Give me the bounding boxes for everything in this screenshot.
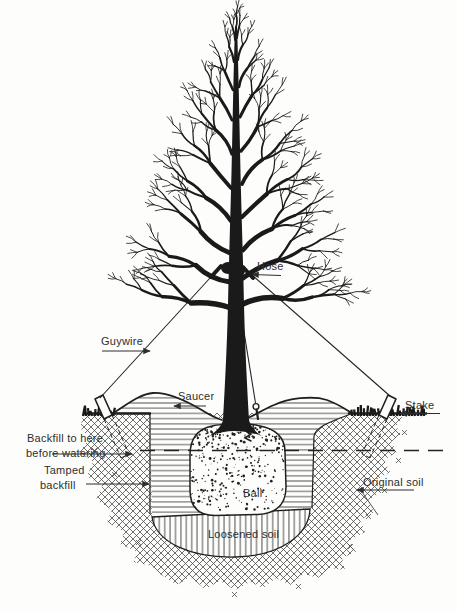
stipple-dot [264, 471, 265, 472]
stipple-dot [207, 429, 208, 430]
stipple-dot [202, 447, 203, 448]
stipple-dot [214, 480, 216, 482]
stipple-dot [253, 508, 255, 510]
stipple-dot [276, 447, 279, 450]
stipple-dot [258, 460, 260, 462]
stipple-dot [229, 472, 231, 474]
stipple-dot [202, 492, 203, 493]
stipple-dot [272, 490, 273, 491]
stipple-dot [225, 493, 227, 495]
stipple-dot [193, 481, 195, 483]
label-loosened-soil: Loosened soil [208, 528, 279, 540]
stipple-dot [220, 495, 222, 497]
stipple-dot [209, 496, 210, 497]
stipple-dot [282, 458, 284, 460]
stipple-dot [220, 488, 222, 490]
stipple-dot [237, 447, 239, 449]
stipple-dot [219, 434, 221, 436]
stipple-dot [254, 427, 256, 429]
stipple-dot [220, 440, 221, 441]
stipple-dot [241, 502, 242, 503]
stipple-dot [207, 436, 209, 438]
stipple-dot [219, 484, 221, 486]
stipple-dot [251, 456, 253, 458]
stipple-dot [205, 437, 207, 439]
stipple-dot [204, 495, 205, 496]
stipple-dot [263, 443, 265, 445]
label-hose: Hose [257, 260, 284, 272]
stipple-dot [231, 453, 233, 455]
stipple-dot [256, 429, 258, 431]
stipple-dot [202, 453, 203, 454]
stipple-dot [240, 431, 242, 433]
stipple-dot [240, 440, 243, 443]
stipple-dot [196, 479, 198, 481]
stipple-dot [263, 489, 265, 491]
stipple-dot [227, 447, 229, 449]
stipple-dot [259, 456, 260, 457]
stipple-dot [262, 470, 263, 471]
stipple-dot [268, 434, 270, 436]
stipple-dot [260, 472, 261, 473]
stipple-dot [218, 437, 221, 440]
hose-leader-arrow [252, 275, 281, 276]
stipple-dot [208, 498, 210, 500]
stipple-dot [212, 437, 214, 439]
stipple-dot [200, 489, 203, 492]
stipple-dot [224, 498, 225, 499]
stipple-dot [275, 438, 277, 440]
stipple-dot [215, 473, 217, 475]
stipple-dot [259, 426, 261, 428]
stipple-dot [191, 480, 193, 482]
stipple-dot [220, 458, 222, 460]
stipple-dot [223, 434, 224, 435]
stipple-dot [239, 470, 240, 471]
stipple-dot [263, 430, 265, 432]
planting-diagram: Hose Guywire Saucer Stake Backfill to he… [0, 0, 457, 611]
label-backfill-note-line1: Backfill to here [27, 432, 103, 444]
stipple-dot [276, 493, 277, 494]
stipple-dot [229, 437, 231, 439]
stipple-dot [207, 490, 209, 492]
stipple-dot [242, 459, 244, 461]
stipple-dot [262, 437, 263, 438]
stipple-dot [272, 436, 274, 438]
stipple-dot [238, 457, 239, 458]
stipple-dot [265, 435, 267, 437]
stipple-dot [191, 477, 192, 478]
stipple-dot [198, 434, 200, 436]
stipple-dot [196, 435, 198, 437]
stipple-dot [239, 459, 240, 460]
stipple-dot [225, 487, 227, 489]
stipple-dot [283, 469, 284, 470]
stipple-dot [272, 452, 273, 453]
stipple-dot [213, 460, 215, 462]
stipple-dot [192, 493, 193, 494]
stipple-dot [253, 446, 255, 448]
stipple-dot [209, 432, 210, 433]
stipple-dot [231, 475, 233, 477]
stipple-dot [222, 467, 223, 468]
stipple-dot [239, 500, 240, 501]
label-stake: Stake [405, 399, 434, 411]
stipple-dot [203, 475, 205, 477]
stipple-dot [229, 458, 231, 460]
stipple-dot [250, 462, 252, 464]
stipple-dot [205, 481, 206, 482]
stipple-dot [265, 439, 268, 442]
stipple-dot [207, 432, 209, 434]
stipple-dot [206, 503, 208, 505]
stipple-dot [220, 494, 221, 495]
stipple-dot [217, 495, 218, 496]
stipple-dot [223, 447, 224, 448]
stipple-dot [219, 491, 221, 493]
stipple-dot [221, 453, 222, 454]
stipple-dot [267, 507, 269, 509]
stipple-dot [259, 475, 261, 477]
label-guywire: Guywire [101, 335, 143, 347]
stipple-dot [211, 463, 212, 464]
stipple-dot [207, 442, 209, 444]
stipple-dot [221, 482, 223, 484]
stipple-dot [265, 496, 267, 498]
stipple-dot [211, 479, 214, 482]
